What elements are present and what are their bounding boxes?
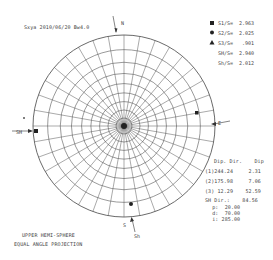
table-row: (3) 12.29 52.59 (205, 188, 261, 194)
projection-label: EQUAL ANGLE PROJECTION (14, 241, 82, 247)
legend-item-sh-small: Sh/S= 2.012 (218, 60, 254, 67)
east-label: E (218, 120, 221, 126)
sh-direction: SH Dir.: 84.56 (205, 197, 258, 203)
west-sh-label: SH (16, 129, 22, 135)
legend-item-s1: S1/S= 2.963 (218, 20, 254, 27)
table-row: (1)244.24 2.31 (205, 168, 261, 174)
hemisphere-label: UPPER HEMI-SPHERE (22, 232, 75, 238)
legend-item-sh: SH/S= 2.940 (218, 50, 254, 57)
legend-item-s3: S3/S= .901 (218, 40, 254, 47)
sh-arrow-label: Sh (134, 233, 140, 239)
param-i: i: 285.00 (206, 216, 240, 222)
table-header: Dip. Dir. Dip (214, 158, 264, 164)
legend-item-s2: S2/S= 2.025 (218, 30, 254, 37)
north-label: N (121, 20, 124, 26)
south-label: S (123, 222, 126, 228)
table-row: (2)175.98 7.06 (205, 178, 261, 184)
